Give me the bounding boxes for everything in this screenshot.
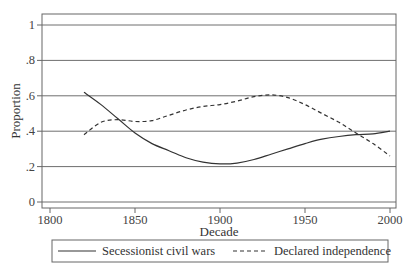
- y-tick-label: .8: [26, 53, 35, 67]
- y-tick-label: .4: [26, 124, 36, 138]
- y-tick-label: 0: [29, 195, 35, 209]
- x-axis-title: Decade: [200, 224, 239, 239]
- legend-label-declared: Declared independence: [274, 244, 391, 258]
- x-tick-label: 1950: [293, 213, 318, 227]
- y-tick-label: .6: [26, 89, 35, 103]
- declared-independence-line: [84, 95, 390, 156]
- secessionist-civil-wars-line: [84, 92, 390, 164]
- data-series: [84, 92, 390, 164]
- x-tick-label: 1800: [38, 213, 63, 227]
- y-axis-title: Proportion: [8, 83, 23, 139]
- y-tick-label: .2: [26, 160, 35, 174]
- plot-frame: [42, 14, 396, 208]
- y-tick-label: 1: [29, 18, 35, 32]
- x-tick-label: 2000: [378, 213, 403, 227]
- gridlines: [42, 25, 396, 202]
- line-chart: 0.2.4.6.81 18001850190019502000 Proporti…: [0, 0, 416, 275]
- y-axis-ticks: 0.2.4.6.81: [26, 18, 42, 209]
- legend: Secessionist civil wars Declared indepen…: [52, 240, 391, 262]
- x-tick-label: 1850: [123, 213, 148, 227]
- legend-label-secessionist: Secessionist civil wars: [102, 244, 215, 258]
